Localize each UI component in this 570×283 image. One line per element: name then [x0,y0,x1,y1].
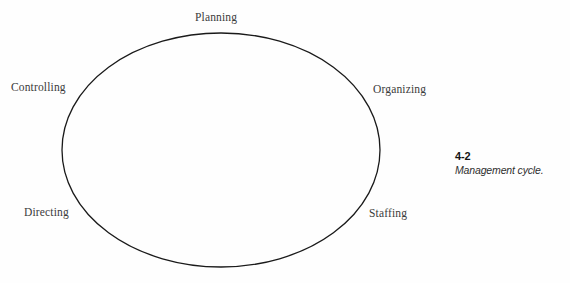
node-label-staffing: Staffing [369,207,407,220]
figure-page: Planning Organizing Staffing Directing C… [0,0,570,283]
node-label-controlling: Controlling [11,81,66,94]
figure-caption: 4-2 Management cycle. [455,149,567,177]
node-label-organizing: Organizing [373,83,426,96]
cycle-ellipse-path [62,33,380,267]
management-cycle-diagram: Planning Organizing Staffing Directing C… [0,0,450,283]
cycle-ellipse-graphic [0,0,450,283]
figure-title: Management cycle. [455,163,567,177]
node-label-directing: Directing [24,206,69,219]
figure-number: 4-2 [455,149,567,163]
node-label-planning: Planning [195,11,237,24]
